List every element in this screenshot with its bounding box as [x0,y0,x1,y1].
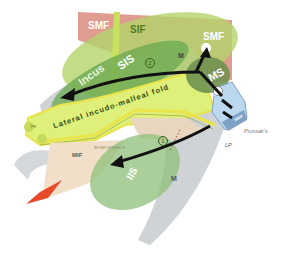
fold-bump [24,122,34,132]
fold-bump [37,134,47,144]
middle-ear-diagram [0,0,283,256]
